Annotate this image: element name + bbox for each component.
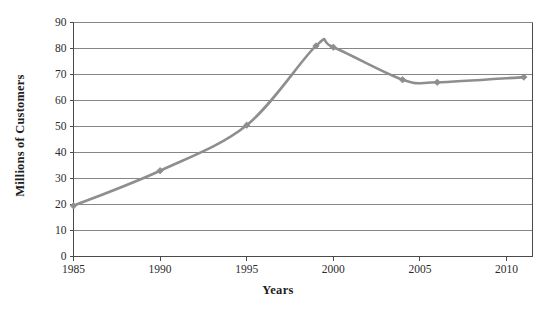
y-tick-label-90: 90: [23, 17, 67, 29]
line-chart: 0102030405060708090 19851990199520002005…: [0, 0, 556, 309]
gridlines: [74, 23, 533, 257]
axis-lines: [74, 23, 533, 257]
tick-marks: [70, 23, 507, 261]
x-tick-label-1985: 1985: [44, 264, 104, 276]
x-tick-label-1995: 1995: [217, 264, 277, 276]
x-tick-label-1990: 1990: [130, 264, 190, 276]
x-tick-label-2010: 2010: [477, 264, 537, 276]
x-axis-title: Years: [0, 283, 556, 298]
marker-2004: [399, 77, 405, 83]
x-tick-label-2000: 2000: [303, 264, 363, 276]
y-tick-label-0: 0: [23, 251, 67, 263]
y-tick-label-60: 60: [23, 95, 67, 107]
y-tick-label-30: 30: [23, 173, 67, 185]
series-line-0: [74, 39, 524, 206]
y-tick-label-40: 40: [23, 147, 67, 159]
data-series: [74, 39, 524, 206]
y-tick-label-70: 70: [23, 69, 67, 81]
marker-2006: [434, 79, 440, 85]
y-axis-title: Millions of Customers: [13, 56, 28, 216]
y-tick-label-50: 50: [23, 121, 67, 133]
y-tick-label-20: 20: [23, 199, 67, 211]
y-tick-label-10: 10: [23, 225, 67, 237]
y-tick-label-80: 80: [23, 43, 67, 55]
x-tick-label-2005: 2005: [390, 264, 450, 276]
